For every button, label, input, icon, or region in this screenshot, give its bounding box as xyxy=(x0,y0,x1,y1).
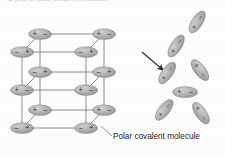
polar-molecule: +– xyxy=(93,105,117,116)
lattice-molecule-layer: +–+––+–+–+–++–+–+–+––+–+ xyxy=(11,29,117,134)
molecule-body xyxy=(186,9,208,36)
polar-molecule: +– xyxy=(188,57,213,84)
charge-negative-sign: – xyxy=(79,124,83,131)
charge-positive-sign: + xyxy=(15,86,19,93)
charge-negative-sign: – xyxy=(25,86,29,93)
charge-positive-sign: + xyxy=(177,88,181,95)
arrow-layer xyxy=(142,52,163,70)
charge-positive-sign: + xyxy=(89,124,93,131)
polar-molecule: +– xyxy=(189,100,213,127)
polar-covalent-molecule-diagram: Crystal of polar covalent molecules +–+–… xyxy=(0,0,225,155)
charge-positive-sign: + xyxy=(107,68,111,75)
polar-molecule: +– xyxy=(186,8,209,36)
polar-molecule: +– xyxy=(29,29,53,40)
charge-positive-sign: + xyxy=(97,106,101,113)
molecule-body xyxy=(189,100,212,127)
charge-positive-sign: + xyxy=(97,30,101,37)
charge-negative-sign: – xyxy=(107,30,111,37)
charge-negative-sign: – xyxy=(97,68,101,75)
polar-molecule: +– xyxy=(173,87,199,98)
polar-molecule: –+ xyxy=(29,67,53,78)
charge-positive-sign: + xyxy=(79,86,83,93)
charge-negative-sign: – xyxy=(79,48,83,55)
polar-molecule: +– xyxy=(93,29,117,40)
molecule-body xyxy=(188,57,212,83)
molecule-body xyxy=(155,60,178,87)
polar-molecule: –+ xyxy=(93,67,117,78)
polar-molecule: +– xyxy=(29,105,53,116)
polar-molecule: –+ xyxy=(75,47,99,58)
polar-molecule: +– xyxy=(155,59,179,86)
charge-positive-sign: + xyxy=(33,106,37,113)
charge-negative-sign: – xyxy=(189,88,193,95)
charge-negative-sign: – xyxy=(43,30,47,37)
charge-negative-sign: – xyxy=(15,48,19,55)
charge-negative-sign: – xyxy=(107,106,111,113)
charge-negative-sign: – xyxy=(33,68,37,75)
polar-molecule: –+ xyxy=(75,123,99,134)
charge-negative-sign: – xyxy=(89,86,93,93)
polar-molecule: +– xyxy=(11,85,35,96)
charge-positive-sign: + xyxy=(25,48,29,55)
charge-positive-sign: + xyxy=(33,30,37,37)
polar-molecule: +– xyxy=(75,85,99,96)
charge-negative-sign: – xyxy=(43,106,47,113)
molecule-body xyxy=(152,97,176,123)
polar-covalent-molecule-label: Polar covalent molecule xyxy=(113,132,200,141)
transition-arrow xyxy=(142,52,163,70)
leader-line-layer xyxy=(101,126,112,136)
charge-negative-sign: – xyxy=(15,124,19,131)
polar-molecule: +– xyxy=(152,96,177,123)
polar-molecule: –+ xyxy=(11,123,35,134)
charge-positive-sign: + xyxy=(43,68,47,75)
polar-molecule: +– xyxy=(165,32,188,60)
molecule-body xyxy=(165,33,187,60)
cluster-molecule-layer: +–+–+–+–+–+–+– xyxy=(152,8,213,127)
charge-positive-sign: + xyxy=(89,48,93,55)
polar-molecule: –+ xyxy=(11,47,35,58)
charge-positive-sign: + xyxy=(25,124,29,131)
label-leader-line xyxy=(101,126,112,136)
